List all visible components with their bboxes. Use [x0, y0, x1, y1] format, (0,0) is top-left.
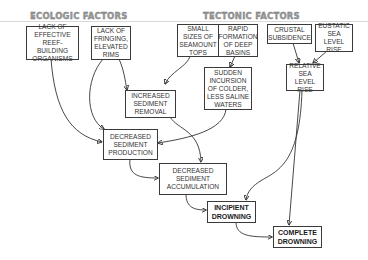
node-decreased-sediment-accumulation: DECREASED SEDIMENT ACCUMULATION — [159, 163, 227, 195]
node-rapid-formation-deep-basins: RAPID FORMATION OF DEEP BASINS — [218, 24, 258, 57]
node-small-seamount-tops: SMALL SIZES OF SEAMOUNT TOPS — [177, 24, 219, 57]
node-increased-sediment-removal: INCREASED SEDIMENT REMOVAL — [125, 90, 176, 118]
node-relative-sea-level-rise: RELATIVE SEA LEVEL RISE — [286, 64, 324, 91]
node-complete-drowning: COMPLETE DROWNING — [273, 226, 322, 248]
arrow-removal-to-accumulation — [170, 117, 201, 162]
node-crustal-subsidence: CRUSTAL SUBSIDENCE — [267, 24, 312, 44]
node-incipient-drowning: INCIPIENT DROWNING — [207, 201, 256, 223]
arrow-seamount-to-removal — [165, 56, 190, 84]
arrow-reef-to-production — [51, 59, 102, 142]
node-lack-reef-building-organisms: LACK OF EFFECTIVE REEF-BUILDING ORGANISM… — [26, 26, 79, 60]
arrow-accumulation-to-incipient — [186, 194, 206, 210]
arrow-relative-to-complete — [289, 90, 300, 225]
arrow-subsidence-to-relative — [293, 43, 299, 63]
node-lack-fringing-elevated-rims: LACK OF FRINGING, ELEVATED RIMS — [91, 26, 131, 60]
arrow-basins-to-incursion — [230, 56, 235, 67]
node-eustatic-sea-level-rise: EUSTATIC SEA LEVEL RISE — [315, 24, 353, 52]
arrow-rims-to-removal — [119, 59, 127, 90]
node-decreased-sediment-production: DECREASED SEDIMENT PRODUCTION — [103, 129, 158, 160]
node-sudden-incursion-colder-waters: SUDDEN INCURSION OF COLDER, LESS SALINE … — [204, 67, 252, 110]
arrow-incipient-to-complete — [236, 222, 272, 237]
arrow-production-to-accumulation — [130, 159, 158, 178]
arrow-rims-to-production — [90, 59, 104, 129]
arrow-relative-to-incipient — [246, 90, 302, 200]
